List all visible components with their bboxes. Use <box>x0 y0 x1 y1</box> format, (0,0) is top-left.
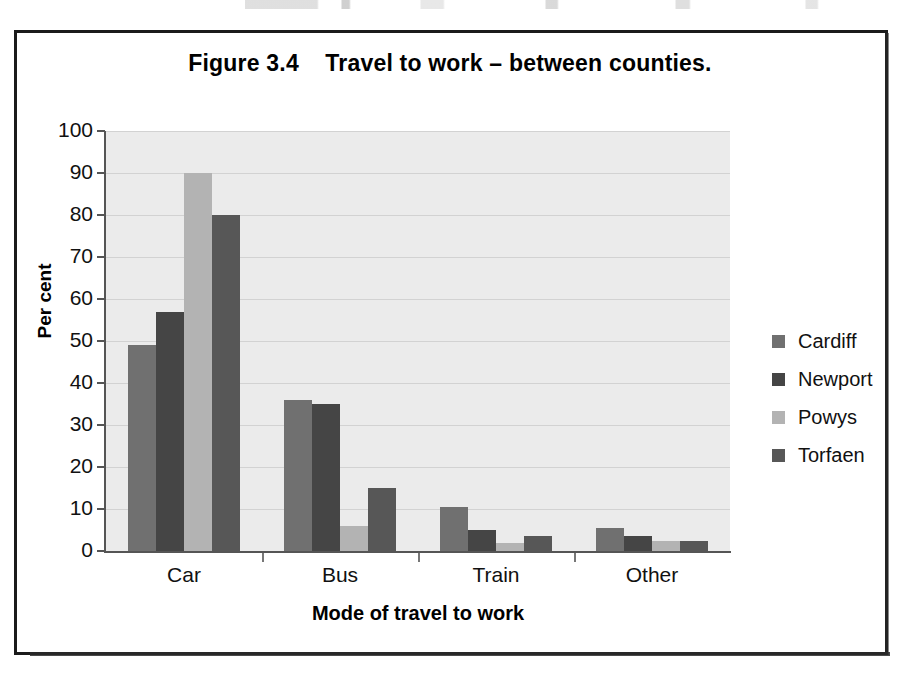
bar <box>652 541 680 552</box>
x-axis-category-label: Train <box>416 563 576 587</box>
bar <box>496 543 524 551</box>
y-axis-tick-label: 80 <box>49 202 93 226</box>
legend-swatch-icon <box>772 373 785 386</box>
legend-label: Powys <box>798 406 857 429</box>
frame-shadow-bottom <box>30 652 890 656</box>
y-axis-tick <box>97 256 105 258</box>
legend-item-torfaen: Torfaen <box>772 436 872 474</box>
bar <box>440 507 468 551</box>
y-axis-tick-label: 20 <box>49 454 93 478</box>
frame-shadow-right <box>885 33 889 655</box>
y-axis-tick <box>97 382 105 384</box>
x-axis-category-label: Bus <box>260 563 420 587</box>
y-axis-tick <box>97 550 105 552</box>
y-axis-tick <box>97 424 105 426</box>
legend-label: Newport <box>798 368 872 391</box>
legend-item-newport: Newport <box>772 360 872 398</box>
chart-legend: CardiffNewportPowysTorfaen <box>772 322 872 474</box>
y-axis-tick <box>97 172 105 174</box>
bar <box>312 404 340 551</box>
bar <box>212 215 240 551</box>
chart-title: Figure 3.4 Travel to work – between coun… <box>60 50 840 77</box>
plot-area <box>106 131 730 551</box>
x-axis-category-label: Car <box>104 563 264 587</box>
y-axis-tick-label: 30 <box>49 412 93 436</box>
bar <box>156 312 184 551</box>
y-axis-tick <box>97 340 105 342</box>
y-axis-tick <box>97 214 105 216</box>
y-axis-tick-label: 70 <box>49 244 93 268</box>
bar <box>524 536 552 551</box>
legend-swatch-icon <box>772 411 785 424</box>
legend-label: Cardiff <box>798 330 857 353</box>
bar <box>184 173 212 551</box>
legend-item-cardiff: Cardiff <box>772 322 872 360</box>
bar <box>284 400 312 551</box>
x-axis-category-label: Other <box>572 563 732 587</box>
page-bleed-text <box>245 0 885 9</box>
y-axis-tick-label: 60 <box>49 286 93 310</box>
gridline <box>106 131 730 132</box>
y-axis-tick-label: 100 <box>49 118 93 142</box>
y-axis-tick-label: 50 <box>49 328 93 352</box>
x-axis-tick <box>418 553 420 562</box>
x-axis-title: Mode of travel to work <box>106 602 730 625</box>
bar <box>128 345 156 551</box>
y-axis-tick-label: 0 <box>49 538 93 562</box>
bar <box>680 541 708 552</box>
bar <box>624 536 652 551</box>
y-axis-tick-label: 10 <box>49 496 93 520</box>
y-axis-tick <box>97 298 105 300</box>
y-axis-tick-label: 90 <box>49 160 93 184</box>
legend-swatch-icon <box>772 449 785 462</box>
y-axis-tick <box>97 130 105 132</box>
x-axis-tick <box>574 553 576 562</box>
x-axis-tick <box>262 553 264 562</box>
y-axis-tick <box>97 466 105 468</box>
y-axis-tick <box>97 508 105 510</box>
bar <box>596 528 624 551</box>
y-axis-tick-label: 40 <box>49 370 93 394</box>
bar <box>468 530 496 551</box>
bar <box>368 488 396 551</box>
bar <box>340 526 368 551</box>
legend-item-powys: Powys <box>772 398 872 436</box>
legend-swatch-icon <box>772 335 785 348</box>
legend-label: Torfaen <box>798 444 865 467</box>
